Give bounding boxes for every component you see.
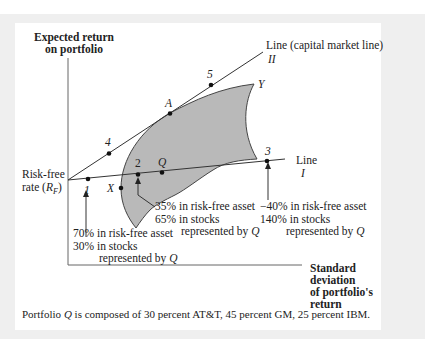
line-two-number: II [268,53,276,65]
point-4 [107,151,112,156]
annotation-1-line3: represented by Q [73,252,178,265]
label-point-q: Q [158,156,166,168]
annotation-3-line3: represented by Q [260,225,366,238]
ann3-text: represented by [286,225,356,237]
ann1-q: Q [169,252,177,264]
x-axis-title: Standard deviation of portfolio's return [310,262,373,310]
label-point-4: 4 [105,136,111,148]
x-axis-title-line3: of portfolio's [310,286,373,298]
label-point-3: 3 [265,145,271,157]
ann2-text: represented by [181,225,251,237]
rf-pre: rate ( [22,181,46,193]
label-point-5: 5 [207,68,213,80]
annotation-3-line2: 140% in stocks [260,213,366,226]
point-q [160,170,165,175]
annotation-point-2: 35% in risk-free asset 65% in stocks rep… [155,200,260,238]
annotation-2-line2: 65% in stocks [155,213,260,226]
label-point-a: A [165,97,172,109]
caption-q: Q [64,308,72,320]
y-axis-title: Expected return on portfolio [34,31,114,55]
point-5 [209,83,214,88]
rf-post: ) [58,181,62,193]
risk-free-rate-label: Risk-free rate (RF) [22,168,65,198]
x-axis-title-line2: deviation [310,274,373,286]
risk-free-label-line1: Risk-free [22,168,65,181]
ann1-text: represented by [99,252,169,264]
point-x [119,186,124,191]
annotation-point-3: −40% in risk-free asset 140% in stocks r… [260,200,366,238]
line-two-title: Line (capital market line) [266,39,383,51]
figure-caption: Portfolio Q is composed of 30 percent AT… [22,308,370,320]
label-point-y: Y [258,78,264,90]
point-2 [136,172,141,177]
ann2-q: Q [251,225,259,237]
label-point-2: 2 [135,157,141,169]
y-axis-title-line2: on portfolio [34,43,114,55]
rf-symbol: R [46,181,53,193]
caption-pre: Portfolio [22,308,64,320]
y-axis-title-line1: Expected return [34,31,114,43]
annotation-1-line2: 30% in stocks [73,240,178,253]
point-1 [86,177,91,182]
label-point-1: 1 [84,184,90,196]
point-a [168,111,173,116]
point-3 [265,159,270,164]
risk-free-label-line2: rate (RF) [22,181,65,198]
x-axis-title-line1: Standard [310,262,373,274]
line-one-title: Line [296,154,317,166]
label-point-x: X [107,182,114,194]
ann3-q: Q [356,225,364,237]
annotation-2-line3: represented by Q [155,225,260,238]
line-one-number: I [301,167,305,179]
annotation-2-line1: 35% in risk-free asset [155,200,260,213]
caption-post: is composed of 30 percent AT&T, 45 perce… [72,308,370,320]
annotation-3-line1: −40% in risk-free asset [260,200,366,213]
